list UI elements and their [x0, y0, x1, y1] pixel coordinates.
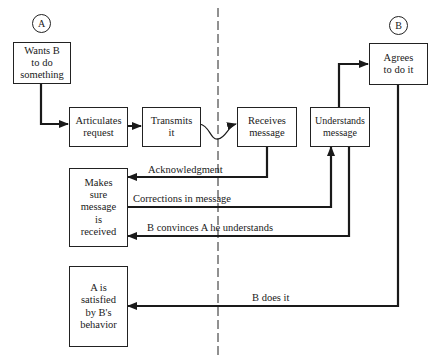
- edge-label-does-it: B does it: [252, 292, 289, 303]
- actor-a-badge: A: [32, 14, 51, 33]
- node-satisfied: A is satisfied by B's behavior: [69, 266, 128, 347]
- node-wants: Wants B to do something: [13, 42, 71, 84]
- actor-a-label: A: [38, 18, 45, 29]
- node-transmits: Transmits it: [142, 107, 201, 147]
- edge-label-convinces: B convinces A he understands: [147, 222, 273, 233]
- actor-b-badge: B: [389, 16, 408, 35]
- node-agrees: Agrees to do it: [369, 43, 428, 85]
- node-articulates: Articulates request: [69, 107, 128, 147]
- node-understands: Understands message: [310, 107, 370, 147]
- edge-label-acknowledgment: Acknowledgment: [148, 164, 223, 175]
- edge-label-corrections: Corrections in message: [133, 193, 231, 204]
- node-receives: Receives message: [237, 107, 297, 147]
- node-makes-sure: Makes sure message is received: [69, 168, 128, 247]
- actor-b-label: B: [395, 20, 402, 31]
